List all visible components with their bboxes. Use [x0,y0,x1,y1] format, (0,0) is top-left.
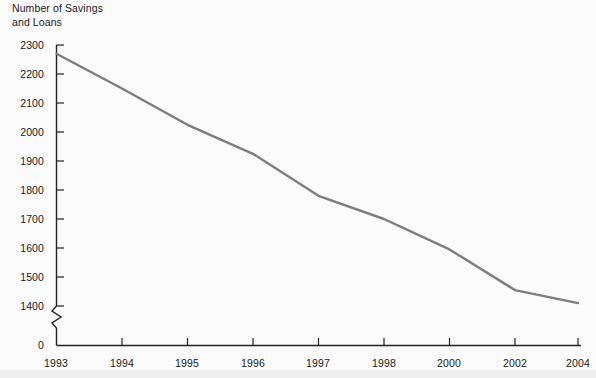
footer-band [0,370,596,378]
y-tick-label-2000: 2000 [6,126,44,138]
y-tick-label-2200: 2200 [6,68,44,80]
x-tick-label-2002: 2002 [491,357,539,369]
data-series-line [57,54,579,303]
y-tick-label-2100: 2100 [6,97,44,109]
x-tick-label-1993: 1993 [32,357,80,369]
x-tick-label-2004: 2004 [554,357,596,369]
y-tick-label-1900: 1900 [6,155,44,167]
y-axis-ticks [57,45,65,306]
y-tick-label-1500: 1500 [6,271,44,283]
x-tick-label-1998: 1998 [360,357,408,369]
chart-plot-area [0,0,596,378]
chart-container: Number of Savings and Loans [0,0,596,378]
y-tick-label-0: 0 [6,339,44,351]
x-tick-label-1995: 1995 [163,357,211,369]
y-tick-label-1800: 1800 [6,184,44,196]
x-tick-label-1996: 1996 [229,357,277,369]
x-tick-label-1997: 1997 [294,357,342,369]
y-tick-label-1400: 1400 [6,300,44,312]
x-tick-label-2000: 2000 [425,357,473,369]
x-tick-label-1994: 1994 [98,357,146,369]
y-tick-label-2300: 2300 [6,39,44,51]
y-tick-label-1700: 1700 [6,213,44,225]
x-axis-ticks [122,338,578,346]
y-tick-label-1600: 1600 [6,242,44,254]
y-axis-break-icon [52,306,61,328]
